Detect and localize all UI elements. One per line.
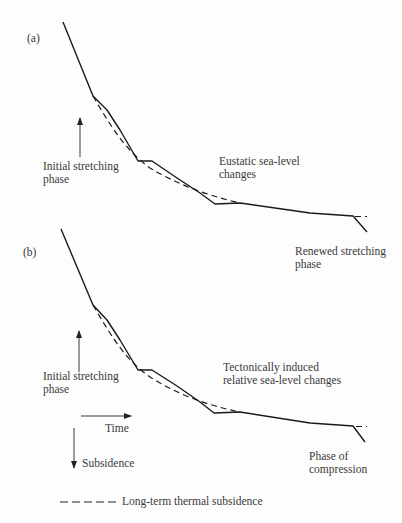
panel-b-right-annotation: Phase of compression [309,450,367,476]
panel-a-middle-annotation: Eustatic sea-level changes [219,155,300,181]
panel-a-right-annotation: Renewed stretching phase [295,245,386,271]
annotation-line: phase [295,258,386,271]
legend-thermal-subsidence-label: Long-term thermal subsidence [122,495,263,508]
annotation-line: Initial stretching [43,160,119,173]
panel-a-thermal-curve [93,96,240,203]
panel-b-label: (b) [23,246,36,259]
panel-a-left-annotation: Initial stretching phase [43,160,119,186]
panel-b-left-annotation: Initial stretching phase [43,370,119,396]
panel-a-label: (a) [27,32,40,45]
panel-b-middle-annotation: Tectonically induced relative sea-level … [223,361,341,387]
annotation-line: Renewed stretching [295,245,386,258]
panel-a-subsidence-curve [63,22,367,232]
annotation-line: compression [309,463,367,476]
annotation-line: relative sea-level changes [223,374,341,387]
annotation-line: changes [219,168,300,181]
subsidence-axis-label: Subsidence [82,457,134,470]
time-axis-label: Time [105,422,129,435]
annotation-line: Phase of [309,450,367,463]
annotation-line: Initial stretching [43,370,119,383]
annotation-line: phase [43,173,119,186]
annotation-line: Eustatic sea-level [219,155,300,168]
annotation-line: Tectonically induced [223,361,341,374]
subsidence-diagram: (a) Initial stretching phase Eustatic se… [0,0,402,523]
annotation-line: phase [43,383,119,396]
